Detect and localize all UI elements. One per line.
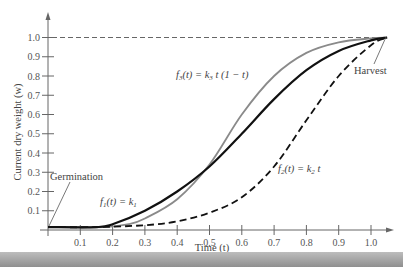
y-tick-label: 0.7	[28, 90, 41, 101]
curve-f3	[48, 38, 387, 228]
y-tick-label: 0.9	[28, 51, 41, 62]
curve-f1	[48, 38, 387, 228]
axes: 0.10.20.30.40.50.60.70.80.91.0 0.10.20.3…	[28, 12, 395, 248]
harvest-pointer	[374, 37, 386, 64]
y-tick-label: 0.2	[28, 186, 41, 197]
curve-f2	[48, 38, 387, 228]
curves	[48, 38, 387, 228]
germination-label: Germination	[50, 171, 104, 182]
y-tick-label: 0.6	[28, 109, 41, 120]
y-tick-label: 0.5	[28, 128, 41, 139]
y-ticks: 0.10.20.30.40.50.60.70.80.91.0	[28, 32, 55, 216]
y-tick-label: 0.1	[28, 205, 41, 216]
y-tick-label: 0.3	[28, 167, 41, 178]
page-bottom-band	[0, 252, 403, 267]
x-tick-label: 1.0	[365, 237, 378, 248]
x-tick-label: 0.2	[106, 237, 119, 248]
x-tick-label: 0.6	[236, 237, 249, 248]
f1-label: f1(t) = k1	[100, 196, 137, 209]
f3-label: f3(t) = k3 t (1 − t)	[176, 69, 249, 82]
y-tick-label: 0.4	[28, 148, 41, 159]
growth-curves-chart: 0.10.20.30.40.50.60.70.80.91.0 0.10.20.3…	[0, 0, 403, 252]
x-axis-arrow-icon	[386, 228, 394, 233]
x-tick-label: 0.9	[332, 237, 345, 248]
x-tick-label: 0.4	[171, 237, 184, 248]
x-tick-label: 0.3	[139, 237, 152, 248]
germination-pointer	[49, 182, 70, 226]
y-axis-title: Current dry weight (w)	[12, 83, 24, 181]
f2-label: f2(t) = k2 t	[278, 163, 321, 176]
harvest-label: Harvest	[354, 65, 387, 76]
x-tick-label: 0.1	[74, 237, 87, 248]
y-tick-label: 1.0	[28, 32, 41, 43]
x-axis-title: Time (t)	[195, 242, 230, 252]
y-tick-label: 0.8	[28, 71, 41, 82]
y-axis-arrow-icon	[46, 12, 51, 20]
x-tick-label: 0.7	[268, 237, 281, 248]
x-tick-label: 0.8	[300, 237, 313, 248]
